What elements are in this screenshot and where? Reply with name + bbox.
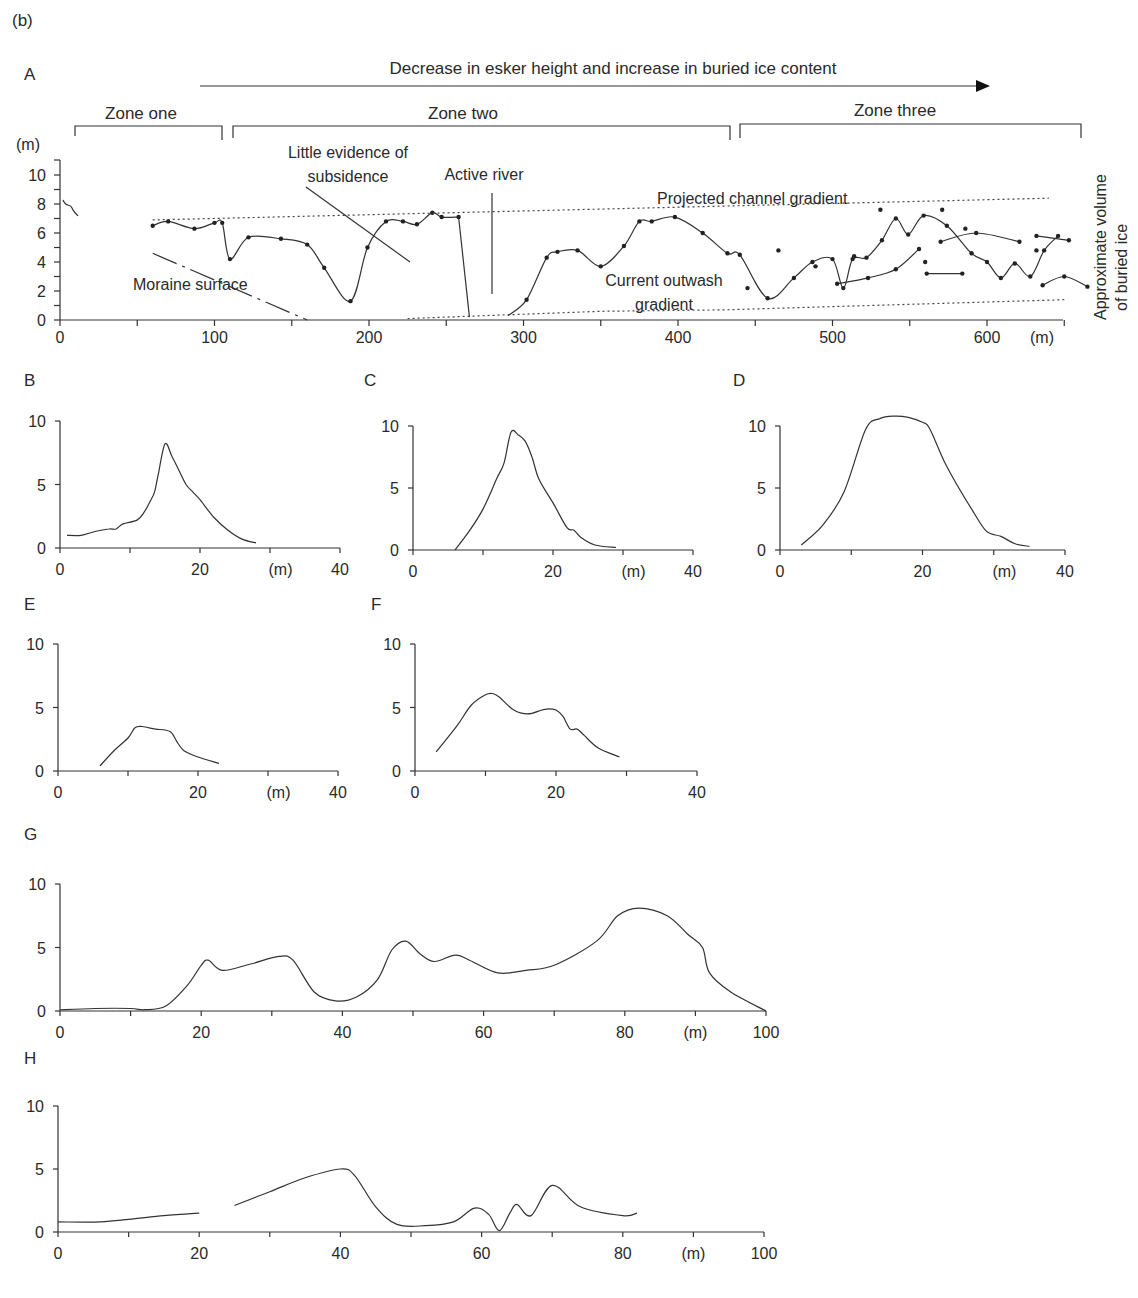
survey-point: [279, 237, 283, 241]
survey-point: [575, 248, 579, 252]
cross-section-profile: [436, 693, 619, 757]
survey-point: [894, 267, 898, 271]
survey-point: [1040, 283, 1044, 287]
cross-section-profile: [235, 1169, 637, 1231]
right-label-1: Approximate volume: [1092, 174, 1109, 320]
x-tick-label: 20: [190, 1245, 208, 1262]
survey-point: [830, 257, 834, 261]
survey-point: [599, 264, 603, 268]
survey-point: [1013, 261, 1017, 265]
survey-point: [906, 232, 910, 236]
zone-three: Zone three: [740, 101, 1081, 138]
survey-point: [765, 296, 769, 300]
x-tick-label: 100: [753, 1024, 780, 1041]
x-tick-label: 80: [616, 1024, 634, 1041]
panel-label: H: [24, 1049, 36, 1068]
y-tick-label: 5: [37, 477, 46, 494]
survey-point: [555, 250, 559, 254]
survey-point: [969, 251, 973, 255]
y-tick-label: 2: [37, 283, 46, 300]
x-tick-label: 100: [201, 329, 228, 346]
annotation-outwash-2: gradient: [635, 296, 693, 313]
survey-point: [1034, 248, 1038, 252]
panel-e: E051002040(m): [24, 595, 347, 801]
survey-point: [917, 247, 921, 251]
survey-point: [401, 219, 405, 223]
survey-point: [701, 231, 705, 235]
survey-point: [637, 219, 641, 223]
x-tick-label: 20: [544, 563, 562, 580]
survey-point: [985, 260, 989, 264]
x-tick-label: 600: [974, 329, 1001, 346]
cross-section-profile: [100, 726, 219, 766]
panel-d: D051002040(m): [733, 371, 1074, 580]
buried-ice-segment: [1036, 236, 1068, 240]
x-unit-label: (m): [269, 561, 293, 578]
survey-point: [725, 251, 729, 255]
svg-text:Zone two: Zone two: [428, 104, 498, 123]
y-tick-label: 5: [757, 480, 766, 497]
right-label-2: of buried ice: [1113, 224, 1130, 311]
survey-point: [963, 226, 967, 230]
x-tick-label: 200: [356, 329, 383, 346]
survey-point: [792, 276, 796, 280]
x-tick-label: 40: [334, 1024, 352, 1041]
survey-point: [415, 222, 419, 226]
buried-ice-segment: [941, 233, 1020, 242]
survey-point: [151, 224, 155, 228]
panel-label-a: A: [24, 65, 36, 84]
survey-point: [544, 255, 548, 259]
y-tick-label: 0: [390, 542, 399, 559]
survey-point: [1062, 274, 1066, 278]
survey-point: [940, 208, 944, 212]
survey-point: [938, 240, 942, 244]
survey-point: [439, 215, 443, 219]
survey-point: [220, 221, 224, 225]
survey-point: [524, 298, 528, 302]
y-tick-label: 5: [390, 480, 399, 497]
x-tick-label: 0: [54, 1245, 63, 1262]
survey-point: [852, 254, 856, 258]
x-tick-label: 40: [332, 1245, 350, 1262]
panel-label: G: [24, 825, 37, 844]
y-tick-label: 4: [37, 254, 46, 271]
y-tick-label: 5: [35, 1161, 44, 1178]
y-tick-label: 8: [37, 196, 46, 213]
survey-point: [365, 245, 369, 249]
x-tick-label: 20: [547, 784, 565, 801]
survey-point: [738, 253, 742, 257]
x-tick-label: 400: [665, 329, 692, 346]
survey-point: [745, 286, 749, 290]
zone-two: Zone two: [233, 104, 730, 140]
survey-point: [1085, 284, 1089, 288]
survey-point: [960, 271, 964, 275]
panel-a: A Decrease in esker height and increase …: [16, 59, 1130, 346]
survey-point: [650, 219, 654, 223]
survey-point: [384, 219, 388, 223]
survey-point: [322, 266, 326, 270]
x-tick-label: 0: [56, 561, 65, 578]
x-tick-label: 20: [191, 561, 209, 578]
x-tick-label: 100: [751, 1245, 778, 1262]
x-tick-label: 20: [914, 563, 932, 580]
x-tick-label: 60: [475, 1024, 493, 1041]
survey-point: [1034, 234, 1038, 238]
x-tick-label: 500: [819, 329, 846, 346]
survey-point: [878, 208, 882, 212]
svg-text:Zone three: Zone three: [854, 101, 936, 120]
x-tick-label: 40: [688, 784, 706, 801]
x-tick-label: 60: [473, 1245, 491, 1262]
zone-brackets: Zone one Zone two Zone three: [75, 101, 1081, 140]
y-tick-label: 6: [37, 225, 46, 242]
x-tick-label: 300: [510, 329, 537, 346]
y-tick-label: 0: [37, 540, 46, 557]
zone-one: Zone one: [75, 104, 222, 140]
cross-section-profile: [801, 416, 1029, 546]
panel-label: B: [24, 371, 35, 390]
survey-point: [921, 213, 925, 217]
survey-point: [813, 264, 817, 268]
y-tick-label: 0: [35, 1224, 44, 1241]
survey-point: [841, 286, 845, 290]
survey-point: [864, 255, 868, 259]
survey-point: [923, 260, 927, 264]
